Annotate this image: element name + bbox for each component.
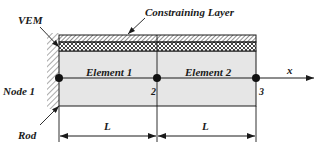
node-2-dot <box>153 74 161 82</box>
label-length-1: L <box>103 120 111 132</box>
label-rod: Rod <box>17 129 37 141</box>
label-node-2: 2 <box>150 86 156 97</box>
label-x-axis: x <box>286 64 293 76</box>
label-constraining-layer: Constraining Layer <box>145 6 235 18</box>
label-vem: VEM <box>18 14 44 26</box>
fixed-wall <box>47 33 59 109</box>
label-node-3: 3 <box>258 86 264 97</box>
label-element-1: Element 1 <box>85 66 132 78</box>
leader-constraining-layer <box>128 18 145 34</box>
node-1-dot <box>55 74 63 82</box>
label-element-2: Element 2 <box>184 66 232 78</box>
label-node-1: Node 1 <box>2 85 35 97</box>
constraining-layer <box>59 35 256 42</box>
beam-diagram: Constraining Layer VEM Node 1 Rod Elemen… <box>0 0 324 151</box>
node-3-dot <box>252 74 260 82</box>
label-length-2: L <box>201 120 209 132</box>
vem-layer <box>59 42 256 51</box>
